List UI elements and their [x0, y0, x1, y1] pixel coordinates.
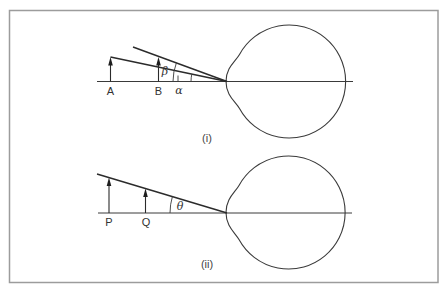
- panel-ii: P Q θ (ii): [97, 156, 352, 270]
- arrow-up-icon: [143, 189, 148, 197]
- object-arrow-b: [156, 57, 161, 82]
- angle-theta-arc: [170, 197, 172, 213]
- panel-i: A B β α (i): [97, 25, 353, 144]
- arrow-up-icon: [108, 57, 113, 66]
- label-theta: θ: [177, 200, 184, 213]
- panel-label-i: (i): [202, 132, 212, 144]
- arrow-up-icon: [107, 178, 112, 186]
- arrow-up-icon: [156, 57, 161, 66]
- label-p: P: [105, 216, 112, 228]
- label-b: B: [155, 85, 162, 97]
- object-arrow-p: [107, 178, 112, 213]
- ray-from-p: [97, 174, 227, 213]
- label-a: A: [107, 85, 115, 97]
- angle-beta-arc: [173, 63, 177, 82]
- label-q: Q: [142, 216, 151, 228]
- angle-alpha-arc: [191, 74, 192, 81]
- object-arrow-q: [143, 189, 148, 213]
- label-beta: β: [161, 65, 168, 78]
- label-alpha: α: [175, 84, 183, 97]
- panel-label-ii: (ii): [201, 258, 213, 270]
- figure-frame: [10, 11, 439, 283]
- object-arrow-a: [108, 57, 113, 82]
- eye-angle-diagram: A B β α (i) P Q θ (ii): [0, 0, 444, 289]
